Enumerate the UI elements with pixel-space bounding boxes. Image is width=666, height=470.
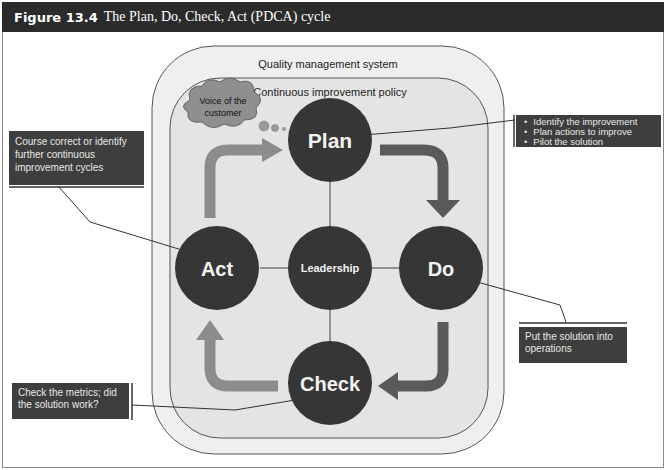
do-callout-text: Put the solution into operations [525,331,613,354]
plan-callout-list: Identify the improvement Plan actions to… [524,117,653,147]
node-do-label: Do [428,258,455,280]
act-callout-text: Course correct or identify further conti… [15,136,127,173]
node-leadership: Leadership [288,226,372,310]
node-plan: Plan [288,98,372,182]
thought-dot-small [282,127,286,131]
plan-callout-item: Pilot the solution [524,137,653,147]
check-callout-text: Check the metrics; did the solution work… [18,387,117,410]
cloud-text-line2: customer [204,108,241,118]
plan-callout: Identify the improvement Plan actions to… [516,115,661,147]
node-check: Check [288,341,372,425]
node-act-label: Act [201,258,234,280]
thought-dot-large [259,121,269,131]
node-act: Act [175,226,259,310]
node-do: Do [399,226,483,310]
do-callout: Put the solution into operations [519,327,627,363]
node-plan-label: Plan [308,129,352,152]
thought-dot-medium [272,125,279,132]
act-callout: Course correct or identify further conti… [9,131,144,185]
inner-container-label: Continuous improvement policy [253,86,407,98]
outer-container-label: Quality management system [258,58,397,70]
check-callout: Check the metrics; did the solution work… [12,383,129,419]
node-check-label: Check [300,373,361,395]
node-leadership-label: Leadership [301,262,360,274]
cloud-text-line1: Voice of the [199,96,246,106]
